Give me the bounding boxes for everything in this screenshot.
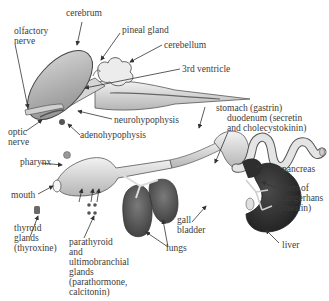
label-stomach: stomach (gastrin) <box>216 103 282 113</box>
anatomy-diagram: cerebrum olfactory nerve pineal gland ce… <box>0 0 329 301</box>
label-cerebellum: cerebellum <box>164 40 206 50</box>
label-pineal-gland: pineal gland <box>122 25 169 35</box>
label-islets-of-langerhans: islets of Langerhans (insulin) <box>279 183 323 213</box>
lungs <box>118 172 178 237</box>
label-liver: liver <box>282 240 299 250</box>
label-cerebrum: cerebrum <box>66 8 102 18</box>
label-duodenum: duodenum (secretin and cholecystokinin) <box>227 113 306 133</box>
label-parathyroid-glands: parathyroid and ultimobranchial glands (… <box>69 237 129 297</box>
label-3rd-ventricle: 3rd ventricle <box>182 64 230 74</box>
label-thyroid-glands: thyroid glands (thyroxine) <box>14 223 57 253</box>
label-lungs: lungs <box>166 243 187 253</box>
label-adenohypophysis: adenohypophysis <box>80 130 146 140</box>
label-olfactory-nerve: olfactory nerve <box>14 26 48 46</box>
label-optic-nerve: optic nerve <box>8 127 29 147</box>
label-pancreas: pancreas <box>282 164 315 174</box>
label-gall-bladder: gall bladder <box>177 215 206 235</box>
label-neurohypophysis: neurohypophysis <box>114 115 179 125</box>
label-mouth: mouth <box>11 190 35 200</box>
label-pharynx: pharynx <box>20 157 51 167</box>
